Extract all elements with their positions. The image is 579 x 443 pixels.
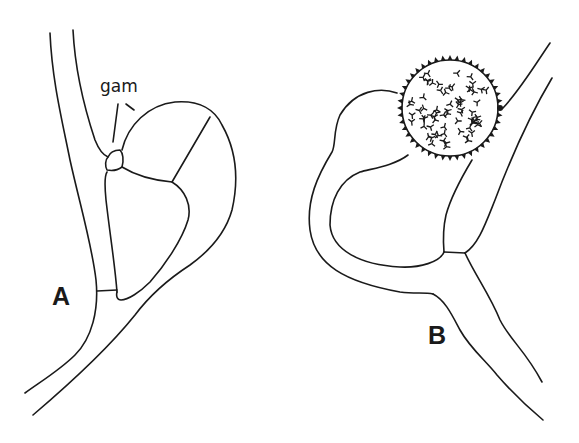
- panel-a-gam-pointer-2: [126, 104, 134, 110]
- panel-a-hypha-inner-wall-lower: [105, 172, 117, 292]
- panel-a-label: A: [52, 284, 70, 309]
- panel-b-lower-hypha-right: [465, 253, 542, 382]
- panel-a-internal-wall: [172, 117, 210, 182]
- panel-b-spines: [397, 55, 503, 161]
- gametangium-label: gam: [100, 78, 138, 95]
- panel-a-gametangium-cell: [106, 150, 123, 170]
- panel-b-hypha-right-wall: [498, 43, 550, 110]
- panel-a-large-cell: [33, 102, 236, 415]
- panel-a-hypha-outer-wall: [25, 33, 97, 393]
- panel-b-hypha-right-inner: [465, 78, 552, 253]
- panel-b-attachment-dot: [497, 105, 503, 111]
- panel-a-lower-cell: [117, 167, 189, 300]
- panel-b-septum: [444, 252, 465, 253]
- diagram-drawing: [0, 0, 579, 443]
- diagram-figure: gam A B: [0, 0, 579, 443]
- panel-b-hypha-left-inner: [443, 160, 472, 252]
- panel-b-label: B: [428, 323, 446, 348]
- panel-a-gam-pointer-1: [113, 104, 118, 142]
- panel-b-inner-loop: [330, 155, 444, 267]
- panel-a-septum: [97, 290, 117, 291]
- panel-b-drawing: [309, 43, 552, 420]
